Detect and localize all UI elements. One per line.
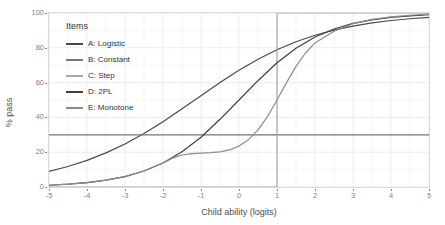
x-tick-mark bbox=[239, 189, 240, 191]
y-tick-mark bbox=[45, 187, 47, 188]
x-tick-label: 2 bbox=[305, 192, 325, 200]
legend-item-label: A: Logistic bbox=[88, 39, 125, 49]
x-tick-label: 4 bbox=[381, 192, 401, 200]
x-tick-label: 5 bbox=[419, 192, 439, 200]
y-tick-label: 0 bbox=[14, 183, 44, 191]
x-axis-title: Child ability (logits) bbox=[48, 206, 430, 218]
x-axis-tick-labels: -5-4-3-2-1012345 bbox=[48, 192, 430, 202]
legend-item[interactable]: D: 2PL bbox=[66, 84, 133, 100]
x-tick-mark bbox=[163, 189, 164, 191]
legend-item[interactable]: B: Constant bbox=[66, 52, 133, 68]
legend-item-label: D: 2PL bbox=[88, 87, 112, 97]
x-tick-mark bbox=[49, 189, 50, 191]
y-tick-mark bbox=[45, 83, 47, 84]
x-tick-mark bbox=[429, 189, 430, 191]
x-tick-label: -2 bbox=[153, 192, 173, 200]
y-tick-label: 80 bbox=[14, 44, 44, 52]
y-tick-mark bbox=[45, 152, 47, 153]
legend-items: A: LogisticB: ConstantC: StepD: 2PLE: Mo… bbox=[66, 36, 133, 116]
x-tick-mark bbox=[353, 189, 354, 191]
y-tick-label: 20 bbox=[14, 148, 44, 156]
y-tick-label: 60 bbox=[14, 79, 44, 87]
legend-item[interactable]: A: Logistic bbox=[66, 36, 133, 52]
legend-key-line-icon bbox=[66, 86, 83, 98]
legend-key-line-icon bbox=[66, 102, 83, 114]
x-tick-label: -3 bbox=[115, 192, 135, 200]
x-tick-label: -5 bbox=[39, 192, 59, 200]
legend-item-label: C: Step bbox=[88, 71, 115, 81]
legend-title: Items bbox=[66, 20, 133, 32]
x-tick-label: 3 bbox=[343, 192, 363, 200]
x-tick-mark bbox=[201, 189, 202, 191]
x-tick-mark bbox=[87, 189, 88, 191]
x-tick-label: -1 bbox=[191, 192, 211, 200]
x-tick-label: 1 bbox=[267, 192, 287, 200]
x-tick-mark bbox=[277, 189, 278, 191]
x-tick-mark bbox=[125, 189, 126, 191]
x-tick-label: -4 bbox=[77, 192, 97, 200]
legend-key-line-icon bbox=[66, 54, 83, 66]
x-tick-mark bbox=[315, 189, 316, 191]
x-tick-label: 0 bbox=[229, 192, 249, 200]
legend-key-line-icon bbox=[66, 38, 83, 50]
y-tick-label: 40 bbox=[14, 113, 44, 121]
y-tick-mark bbox=[45, 48, 47, 49]
y-tick-label: 100 bbox=[14, 9, 44, 17]
legend-key-line-icon bbox=[66, 70, 83, 82]
legend-item[interactable]: E: Monotone bbox=[66, 100, 133, 116]
chart-figure: % pass 020406080100 -5-4-3-2-1012345 Chi… bbox=[0, 0, 445, 225]
y-axis-tick-labels: 020406080100 bbox=[14, 12, 44, 188]
x-tick-mark bbox=[391, 189, 392, 191]
legend-item-label: E: Monotone bbox=[88, 103, 133, 113]
y-tick-mark bbox=[45, 13, 47, 14]
y-tick-mark bbox=[45, 117, 47, 118]
legend: Items A: LogisticB: ConstantC: StepD: 2P… bbox=[62, 18, 137, 118]
legend-item-label: B: Constant bbox=[88, 55, 130, 65]
legend-item[interactable]: C: Step bbox=[66, 68, 133, 84]
